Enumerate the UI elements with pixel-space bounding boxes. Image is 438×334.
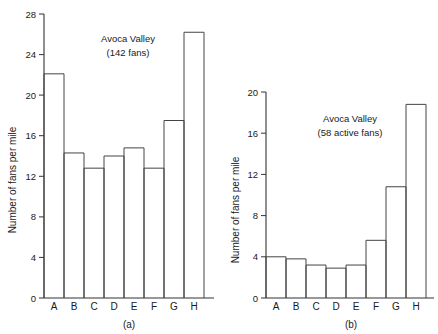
chart-a-panel-caption: (a): [123, 319, 135, 330]
chart-panel-b: Number of fans per mile 0 4 8 12 16 20 A: [218, 0, 438, 334]
chart-b-ytick-0: 0: [253, 293, 258, 304]
bar-b: [286, 259, 306, 298]
chart-panel-a: Number of fans per mile 0 4 8 12 16: [0, 0, 220, 334]
chart-b-svg: Number of fans per mile 0 4 8 12 16 20 A: [218, 0, 438, 334]
chart-a-y-axis-label: Number of fans per mile: [7, 126, 18, 233]
chart-a-ytick-20: 20: [25, 90, 36, 101]
category-label-h: H: [412, 301, 419, 312]
category-label-e: E: [131, 301, 138, 312]
bar-h: [184, 32, 204, 298]
bar-d: [326, 268, 346, 298]
category-label-f: F: [373, 301, 379, 312]
bar-a: [44, 74, 64, 298]
bar-e: [124, 148, 144, 298]
category-label-f: F: [151, 301, 157, 312]
category-label-d: D: [332, 301, 339, 312]
bar-c: [306, 265, 326, 298]
category-label-d: D: [110, 301, 117, 312]
chart-b-ytick-8: 8: [253, 210, 258, 221]
chart-b-category-labels: ABCDEFGH: [273, 301, 420, 312]
chart-a-ytick-4: 4: [31, 252, 36, 263]
chart-a-ytick-24: 24: [25, 49, 36, 60]
category-label-a: A: [273, 301, 280, 312]
category-label-h: H: [190, 301, 197, 312]
chart-a-bars: [44, 32, 204, 298]
chart-b-panel-caption: (b): [345, 319, 357, 330]
bar-f: [144, 168, 164, 298]
category-label-b: B: [71, 301, 78, 312]
category-label-b: B: [293, 301, 300, 312]
bar-e: [346, 265, 366, 298]
bar-c: [84, 168, 104, 298]
chart-b-ytick-12: 12: [247, 169, 258, 180]
chart-a-ytick-28: 28: [25, 9, 36, 20]
bar-g: [386, 187, 406, 298]
chart-a-ytick-0: 0: [31, 293, 36, 304]
chart-a-title: Avoca Valley: [101, 33, 155, 44]
chart-a-category-labels: ABCDEFGH: [51, 301, 198, 312]
chart-a-ytick-8: 8: [31, 211, 36, 222]
chart-a-svg: Number of fans per mile 0 4 8 12 16: [0, 0, 220, 334]
chart-b-ytick-16: 16: [247, 128, 258, 139]
bar-a: [266, 257, 286, 298]
bar-h: [406, 104, 426, 298]
category-label-c: C: [90, 301, 97, 312]
chart-a-y-ticks: [39, 14, 44, 298]
category-label-g: G: [170, 301, 178, 312]
figure-two-panel-bar-charts: Number of fans per mile 0 4 8 12 16: [0, 0, 438, 334]
chart-b-y-tick-labels: 0 4 8 12 16 20: [247, 87, 258, 304]
category-label-c: C: [312, 301, 319, 312]
category-label-e: E: [353, 301, 360, 312]
bar-f: [366, 240, 386, 298]
chart-a-y-tick-labels: 0 4 8 12 16 20 24 28: [25, 9, 36, 304]
category-label-g: G: [392, 301, 400, 312]
chart-b-y-ticks: [261, 92, 266, 298]
chart-b-ytick-4: 4: [253, 251, 258, 262]
category-label-a: A: [51, 301, 58, 312]
chart-b-ytick-20: 20: [247, 87, 258, 98]
chart-b-title: Avoca Valley: [323, 113, 377, 124]
chart-a-ytick-12: 12: [25, 171, 36, 182]
bar-g: [164, 121, 184, 299]
bar-d: [104, 156, 124, 298]
chart-a-ytick-16: 16: [25, 130, 36, 141]
chart-b-y-axis-label: Number of fans per mile: [230, 156, 241, 263]
chart-b-subtitle: (58 active fans): [318, 127, 383, 138]
chart-a-subtitle: (142 fans): [107, 47, 150, 58]
bar-b: [64, 153, 84, 298]
